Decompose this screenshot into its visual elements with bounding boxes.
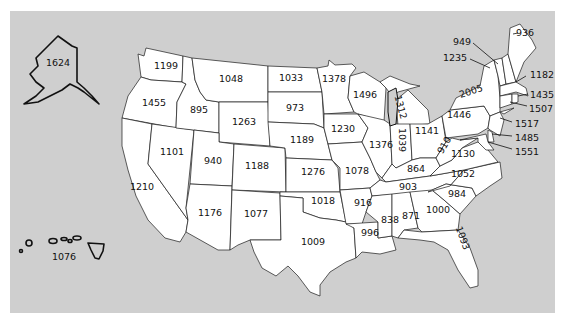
label-maine: 936 <box>516 27 534 38</box>
label-ohio: 1141 <box>415 125 439 136</box>
label-tennessee: 903 <box>399 181 417 192</box>
label-arkansas: 916 <box>354 197 372 208</box>
label-nebraska: 1189 <box>290 134 314 145</box>
label-iowa: 1230 <box>331 123 355 134</box>
label-new-hampshire: 1235 <box>443 52 467 63</box>
label-mississippi: 838 <box>381 214 399 225</box>
state-alaska[interactable] <box>24 36 99 104</box>
label-vermont: 949 <box>453 36 471 47</box>
state-connecticut[interactable] <box>500 94 512 108</box>
label-pennsylvania: 1446 <box>447 109 471 120</box>
label-wyoming: 1263 <box>232 116 256 127</box>
label-utah: 940 <box>204 155 222 166</box>
label-minnesota: 1378 <box>322 73 346 84</box>
label-california: 1210 <box>130 181 154 192</box>
label-alabama: 871 <box>402 210 420 221</box>
label-kansas: 1276 <box>301 166 325 177</box>
label-idaho: 895 <box>190 104 208 115</box>
label-connecticut: 1507 <box>529 103 553 114</box>
label-new-jersey: 1517 <box>515 118 539 129</box>
label-illinois: 1376 <box>369 139 393 150</box>
label-nevada: 1101 <box>160 146 184 157</box>
label-alaska: 1624 <box>46 57 70 68</box>
label-maryland: 1551 <box>515 146 539 157</box>
label-louisiana: 996 <box>361 227 379 238</box>
label-georgia: 1000 <box>426 204 450 215</box>
label-oregon: 1455 <box>142 97 166 108</box>
label-north-dakota: 1033 <box>279 72 303 83</box>
label-missouri: 1078 <box>345 165 369 176</box>
label-oklahoma: 1018 <box>311 195 335 206</box>
label-delaware: 1485 <box>515 132 539 143</box>
label-massachusetts: 1182 <box>530 69 554 80</box>
label-wisconsin: 1496 <box>353 89 377 100</box>
label-virginia: 1130 <box>451 148 475 159</box>
label-washington: 1199 <box>154 60 178 71</box>
label-north-carolina: 1052 <box>451 168 475 179</box>
label-texas: 1009 <box>301 236 325 247</box>
label-south-carolina: 984 <box>448 188 466 199</box>
label-hawaii: 1076 <box>52 251 76 262</box>
label-new-mexico: 1077 <box>244 208 268 219</box>
label-colorado: 1188 <box>245 160 269 171</box>
us-states-map: 1624 1076 1199 1455 1210 1101 895 1048 1… <box>0 0 566 323</box>
label-montana: 1048 <box>219 73 243 84</box>
label-south-dakota: 973 <box>286 102 304 113</box>
label-kentucky: 864 <box>407 163 425 174</box>
label-indiana: 1039 <box>397 128 408 152</box>
label-arizona: 1176 <box>198 207 222 218</box>
label-rhode-island: 1435 <box>530 89 554 100</box>
